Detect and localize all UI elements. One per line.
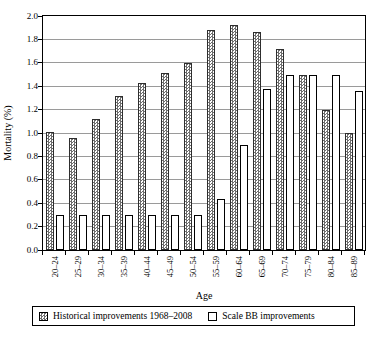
bar-historical-20–24 — [46, 132, 54, 250]
bar-historical-85–89 — [345, 133, 353, 250]
y-tick-label: 0.2 — [0, 221, 38, 232]
bar-historical-45–49 — [161, 73, 169, 250]
x-tick-mark — [203, 251, 204, 255]
y-tick-mark-0.6 — [38, 179, 42, 180]
bar-historical-70–74 — [276, 49, 284, 250]
mortality-bar-chart-figure: Mortality (%) Age Historical improvement… — [0, 0, 377, 339]
x-tick-mark — [318, 251, 319, 255]
legend-label-historical: Historical improvements 1968–2008 — [53, 311, 192, 321]
x-tick-label: 80–84 — [326, 256, 336, 296]
legend-label-scale-bb: Scale BB improvements — [222, 311, 314, 321]
bar-scale-bb-45–49 — [171, 215, 179, 250]
y-tick-mark-0.4 — [38, 203, 42, 204]
plot-area — [42, 15, 366, 251]
y-tick-mark-1.2 — [38, 109, 42, 110]
x-tick-label: 35–39 — [119, 256, 129, 296]
y-tick-label: 0.0 — [0, 245, 38, 256]
x-tick-label: 55–59 — [211, 256, 221, 296]
bar-historical-25–29 — [69, 138, 77, 250]
bar-historical-30–34 — [92, 119, 100, 250]
bar-historical-40–44 — [138, 83, 146, 250]
gridline-1.8 — [43, 39, 365, 40]
x-tick-label: 40–44 — [142, 256, 152, 296]
x-tick-label: 25–29 — [73, 256, 83, 296]
x-tick-mark — [180, 251, 181, 255]
x-tick-mark — [226, 251, 227, 255]
legend-swatch-historical-icon — [39, 312, 48, 321]
x-tick-mark — [65, 251, 66, 255]
x-tick-label: 20–24 — [50, 256, 60, 296]
y-tick-label: 0.8 — [0, 151, 38, 162]
bar-scale-bb-60–64 — [240, 145, 248, 250]
x-tick-mark — [341, 251, 342, 255]
y-tick-mark-1.0 — [38, 133, 42, 134]
x-tick-mark — [295, 251, 296, 255]
bar-scale-bb-80–84 — [332, 75, 340, 251]
bar-scale-bb-65–69 — [263, 89, 271, 251]
y-tick-label: 2.0 — [0, 11, 38, 22]
bar-scale-bb-70–74 — [286, 75, 294, 251]
bar-historical-65–69 — [253, 32, 261, 250]
bar-historical-60–64 — [230, 25, 238, 250]
bar-historical-35–39 — [115, 96, 123, 250]
y-tick-label: 0.6 — [0, 174, 38, 185]
x-tick-label: 50–54 — [188, 256, 198, 296]
x-tick-mark — [272, 251, 273, 255]
y-tick-mark-0.8 — [38, 156, 42, 157]
x-tick-label: 30–34 — [96, 256, 106, 296]
x-tick-mark — [364, 251, 365, 255]
y-tick-label: 1.8 — [0, 34, 38, 45]
x-axis-title: Age — [42, 290, 366, 302]
x-tick-mark — [157, 251, 158, 255]
x-tick-mark — [249, 251, 250, 255]
x-tick-mark — [42, 251, 43, 255]
x-tick-label: 65–69 — [257, 256, 267, 296]
x-tick-label: 45–49 — [165, 256, 175, 296]
y-tick-mark-1.4 — [38, 86, 42, 87]
x-tick-mark — [134, 251, 135, 255]
y-tick-mark-1.8 — [38, 39, 42, 40]
y-tick-label: 0.4 — [0, 198, 38, 209]
y-tick-label: 1.4 — [0, 81, 38, 92]
x-tick-label: 70–74 — [280, 256, 290, 296]
bar-scale-bb-85–89 — [355, 91, 363, 250]
bar-historical-55–59 — [207, 30, 215, 250]
bar-scale-bb-75–79 — [309, 75, 317, 251]
bar-scale-bb-25–29 — [79, 215, 87, 250]
y-tick-mark-2.0 — [38, 16, 42, 17]
bar-historical-75–79 — [299, 75, 307, 251]
y-tick-label: 1.2 — [0, 104, 38, 115]
x-tick-label: 85–89 — [349, 256, 359, 296]
bar-scale-bb-55–59 — [217, 199, 225, 251]
legend-box: Historical improvements 1968–2008 Scale … — [32, 306, 355, 326]
bar-scale-bb-20–24 — [56, 215, 64, 250]
bar-scale-bb-40–44 — [148, 215, 156, 250]
x-tick-mark — [88, 251, 89, 255]
x-tick-mark — [111, 251, 112, 255]
bar-historical-50–54 — [184, 63, 192, 250]
x-tick-label: 60–64 — [234, 256, 244, 296]
bar-historical-80–84 — [322, 110, 330, 250]
y-tick-label: 1.0 — [0, 128, 38, 139]
x-tick-label: 75–79 — [303, 256, 313, 296]
y-tick-label: 1.6 — [0, 57, 38, 68]
y-tick-mark-0.2 — [38, 226, 42, 227]
bar-scale-bb-50–54 — [194, 215, 202, 250]
legend-swatch-scale-bb-icon — [208, 312, 217, 321]
bar-scale-bb-30–34 — [102, 215, 110, 250]
bar-scale-bb-35–39 — [125, 215, 133, 250]
y-tick-mark-1.6 — [38, 62, 42, 63]
gridline-1.6 — [43, 62, 365, 63]
